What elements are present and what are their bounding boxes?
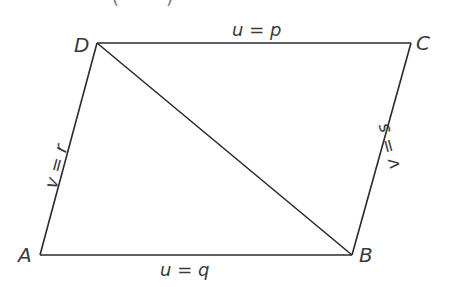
cropped-caption-close: ) <box>166 0 173 8</box>
vertex-label-a: A <box>16 243 32 267</box>
vertex-label-b: B <box>359 243 373 267</box>
side-label-bottom: u = q <box>160 259 209 280</box>
side-label-left: v = r <box>40 141 72 191</box>
vertex-label-d: D <box>74 33 89 57</box>
side-label-right: v = s <box>372 121 404 171</box>
cropped-caption-open: ( <box>112 0 119 8</box>
vertex-label-c: C <box>416 31 430 55</box>
side-label-top: u = p <box>232 19 281 40</box>
diagonal-db <box>97 43 352 255</box>
parallelogram-diagram: ( ) D C A B u = p u = q v = r v = s <box>0 0 453 287</box>
